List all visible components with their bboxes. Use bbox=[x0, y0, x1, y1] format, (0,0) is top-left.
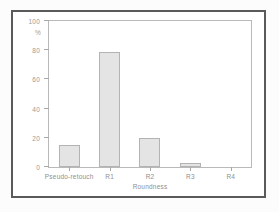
x-tick-r2 bbox=[150, 167, 151, 171]
figure-frame: % 0 20 40 60 80 10 bbox=[11, 10, 266, 198]
bar-slot-r4 bbox=[211, 21, 251, 167]
y-tick-label-20: 20 bbox=[32, 134, 40, 141]
y-tick-label-80: 80 bbox=[32, 47, 40, 54]
x-tick-label-r1: R1 bbox=[105, 173, 114, 180]
figure-container: % 0 20 40 60 80 10 bbox=[0, 0, 279, 212]
bar-r2 bbox=[139, 138, 160, 167]
x-axis-title: Roundness bbox=[49, 183, 251, 190]
x-tick-r3 bbox=[190, 167, 191, 171]
x-tick-r4 bbox=[231, 167, 232, 171]
bar-r1 bbox=[99, 52, 120, 167]
x-tick-label-r2: R2 bbox=[146, 173, 155, 180]
bar-slot-pseudo-retouch bbox=[49, 21, 89, 167]
plot-box: 0 20 40 60 80 100 bbox=[48, 20, 252, 168]
plot-area: 0 20 40 60 80 100 bbox=[49, 21, 251, 167]
x-tick-pseudo-retouch bbox=[69, 167, 70, 171]
bar-slot-r1 bbox=[89, 21, 129, 167]
bar-pseudo-retouch bbox=[59, 145, 80, 167]
y-tick-label-60: 60 bbox=[32, 76, 40, 83]
y-axis-unit-label: % bbox=[35, 29, 41, 36]
y-tick-label-100: 100 bbox=[29, 18, 40, 25]
bar-slot-r3 bbox=[170, 21, 210, 167]
y-tick-label-40: 40 bbox=[32, 105, 40, 112]
x-tick-label-r3: R3 bbox=[186, 173, 195, 180]
x-tick-label-r4: R4 bbox=[226, 173, 235, 180]
y-tick-label-0: 0 bbox=[36, 164, 40, 171]
x-tick-r1 bbox=[110, 167, 111, 171]
x-tick-label-pseudo-retouch: Pseudo-retouch bbox=[45, 173, 94, 180]
bar-slot-r2 bbox=[130, 21, 170, 167]
